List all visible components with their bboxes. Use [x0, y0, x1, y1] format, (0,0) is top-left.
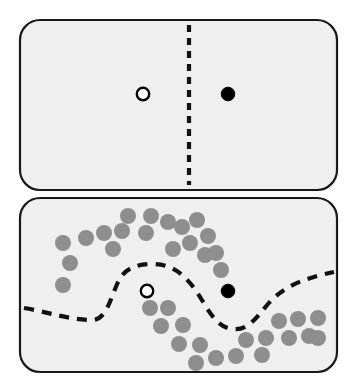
unlabeled-point	[55, 277, 71, 293]
filled-circle-marker-top	[221, 87, 235, 101]
unlabeled-point	[175, 317, 191, 333]
unlabeled-point	[120, 208, 136, 224]
diagram-canvas	[0, 0, 357, 391]
unlabeled-point	[114, 223, 130, 239]
unlabeled-point	[153, 318, 169, 334]
unlabeled-point	[213, 262, 229, 278]
unlabeled-point	[208, 245, 224, 261]
unlabeled-point	[174, 219, 190, 235]
unlabeled-point	[138, 225, 154, 241]
unlabeled-point	[258, 330, 274, 346]
unlabeled-point	[238, 332, 254, 348]
unlabeled-point	[96, 225, 112, 241]
unlabeled-point	[271, 313, 287, 329]
unlabeled-point	[188, 355, 204, 371]
unlabeled-point	[192, 337, 208, 353]
panel-semi-supervised	[20, 198, 337, 372]
unlabeled-point	[62, 255, 78, 271]
unlabeled-point	[78, 230, 94, 246]
unlabeled-point	[182, 235, 198, 251]
unlabeled-point	[171, 336, 187, 352]
unlabeled-point	[143, 208, 159, 224]
unlabeled-point	[281, 330, 297, 346]
unlabeled-point	[310, 330, 326, 346]
unlabeled-point	[228, 348, 244, 364]
unlabeled-point	[200, 228, 216, 244]
open-circle-marker-bottom	[141, 285, 153, 297]
unlabeled-point	[105, 241, 121, 257]
figure-root	[0, 0, 357, 391]
unlabeled-point	[310, 310, 326, 326]
unlabeled-point	[160, 300, 176, 316]
unlabeled-point	[55, 235, 71, 251]
panel-supervised-only	[20, 20, 337, 190]
unlabeled-point	[165, 241, 181, 257]
unlabeled-point	[189, 212, 205, 228]
filled-circle-marker-bottom	[221, 284, 235, 298]
unlabeled-point	[208, 350, 224, 366]
unlabeled-point	[142, 300, 158, 316]
unlabeled-point	[160, 214, 176, 230]
unlabeled-point	[254, 347, 270, 363]
open-circle-marker-top	[137, 88, 149, 100]
unlabeled-point	[290, 311, 306, 327]
panel-background-top	[20, 20, 337, 190]
